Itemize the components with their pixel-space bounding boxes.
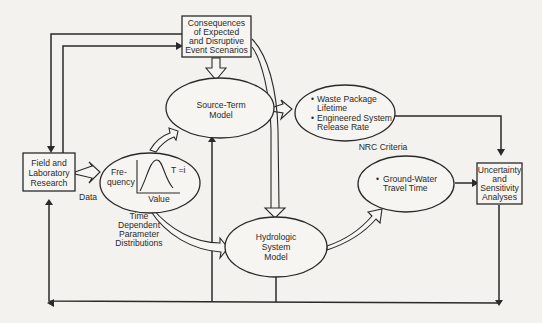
arrowhead (497, 149, 505, 156)
node-text: Model (209, 110, 232, 120)
node-text: Travel Time (383, 183, 428, 193)
node-source-term-model: Source-Term Model (166, 78, 274, 138)
node-text: Model (264, 252, 287, 262)
node-text: Laboratory (28, 168, 70, 178)
hollow-arrow-hydrologic-to-ground-water (327, 209, 382, 250)
arrowhead (47, 146, 55, 153)
connector-field-lab-to-consequences (63, 46, 177, 153)
connector-consequences-to-field-lab (51, 34, 182, 148)
node-text: Event Scenarios (185, 45, 248, 55)
node-field-laboratory-research: Field and Laboratory Research (23, 153, 75, 191)
node-text: Source-Term (196, 100, 245, 110)
frequency-label: quency (107, 177, 135, 187)
hollow-arrow-consequences-to-source-term (206, 58, 226, 80)
node-text: Release Rate (317, 122, 369, 132)
connector-waste-package-to-uncertainty (393, 116, 501, 150)
time-dependent-label: Distributions (115, 238, 162, 248)
nrc-criteria-label: NRC Criteria (359, 142, 408, 152)
node-text: Hydrologic (256, 232, 297, 242)
hollow-arrow-to-hydrologic (150, 208, 228, 258)
node-ground-water-travel-time: • Ground-Water Travel Time (358, 156, 454, 212)
bullet: • (311, 113, 314, 123)
arrowhead (45, 199, 53, 205)
value-label: Value (148, 194, 170, 204)
node-text: Research (31, 178, 68, 188)
node-text: Field and (31, 158, 67, 168)
hollow-arrow-data (75, 162, 100, 183)
arrowhead (47, 299, 54, 307)
node-consequences: Consequences of Expected and Disruptive … (182, 16, 251, 57)
bullet: • (311, 94, 314, 104)
hollow-arrow-to-source-term (150, 128, 178, 152)
bullet: • (376, 174, 379, 184)
node-parameter-distribution: Fre- quency T =i Value (100, 153, 200, 213)
data-label: Data (79, 192, 97, 202)
frequency-label: Fre- (111, 167, 127, 177)
node-text: Analyses (482, 192, 517, 202)
node-uncertainty-sensitivity-analyses: Uncertainty and Sensitivity Analyses (477, 163, 522, 204)
node-waste-package: • Waste Package Lifetime • Engineered Sy… (295, 85, 395, 141)
node-text: Lifetime (317, 103, 347, 113)
performance-assessment-diagram: Consequences of Expected and Disruptive … (0, 0, 542, 323)
node-text: System (262, 242, 291, 252)
node-hydrologic-system-model: Hydrologic System Model (225, 217, 327, 277)
curve-label: T =i (171, 165, 186, 175)
